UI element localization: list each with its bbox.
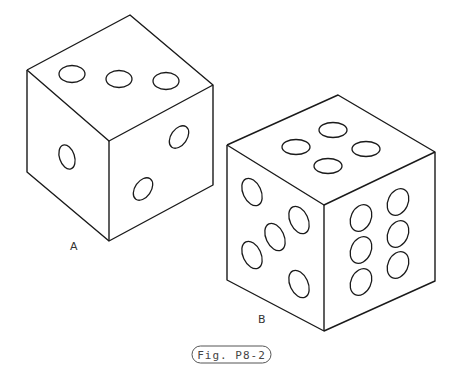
die-b-label: B xyxy=(258,313,266,326)
die-b: B xyxy=(227,95,435,331)
pip xyxy=(282,140,310,155)
pip xyxy=(106,71,132,88)
caption-text: Fig. P8-2 xyxy=(197,349,266,362)
die-a-label: A xyxy=(70,240,78,253)
pip xyxy=(319,123,347,138)
pip xyxy=(352,142,380,157)
die-a: A xyxy=(27,15,213,253)
figure-canvas: A xyxy=(0,0,458,383)
pip xyxy=(153,73,179,90)
pip xyxy=(314,159,342,174)
pip xyxy=(59,66,85,83)
figure-caption: Fig. P8-2 xyxy=(192,346,271,363)
